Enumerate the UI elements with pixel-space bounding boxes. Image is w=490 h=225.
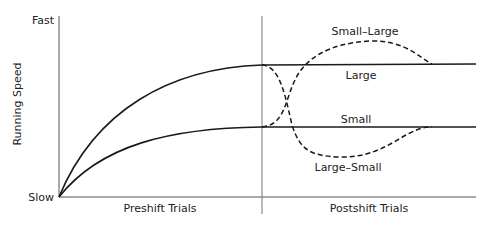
label-small-large: Small–Large xyxy=(332,25,399,38)
y-axis-title: Running Speed xyxy=(11,62,24,145)
contrast-effect-chart: Fast Slow Running Speed Preshift Trials … xyxy=(0,0,490,225)
series-large-line xyxy=(59,64,476,197)
chart-container: Fast Slow Running Speed Preshift Trials … xyxy=(0,0,490,225)
x-label-preshift: Preshift Trials xyxy=(124,202,197,215)
label-small: Small xyxy=(341,113,372,126)
label-large: Large xyxy=(346,69,377,82)
y-tick-slow: Slow xyxy=(28,191,54,204)
y-tick-fast: Fast xyxy=(32,14,55,27)
label-large-small: Large–Small xyxy=(315,161,382,174)
series-small-line xyxy=(59,127,476,197)
x-label-postshift: Postshift Trials xyxy=(330,202,409,215)
